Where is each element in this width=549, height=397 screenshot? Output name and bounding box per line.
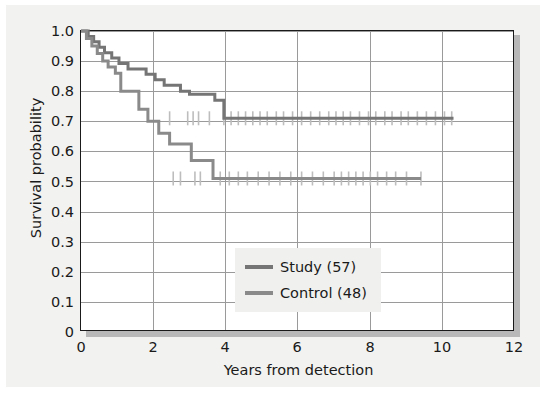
- y-tick-label: 0.5: [51, 175, 74, 190]
- y-tick-label: 0.6: [51, 144, 74, 159]
- y-tick-label: 0.8: [51, 84, 74, 99]
- legend-swatch-study: [245, 265, 273, 269]
- legend-item-control: Control (48): [245, 280, 367, 306]
- x-tick-label: 10: [433, 340, 451, 355]
- y-tick-label: 0.1: [51, 295, 74, 310]
- x-tick-label: 4: [220, 340, 229, 355]
- y-tick-label: 1.0: [51, 24, 74, 39]
- y-tick-label: 0: [65, 325, 74, 340]
- y-axis-title: Survival probability: [28, 68, 44, 268]
- x-tick-label: 2: [148, 340, 157, 355]
- x-tick-label: 0: [76, 340, 85, 355]
- survival-curve-control: [81, 31, 421, 178]
- survival-curve-study: [81, 31, 454, 118]
- x-tick-label: 12: [505, 340, 523, 355]
- legend-label-study: Study (57): [280, 259, 356, 275]
- legend-swatch-control: [245, 291, 273, 295]
- curves-layer: [81, 31, 454, 178]
- x-tick-label: 8: [365, 340, 374, 355]
- x-tick-label: 6: [292, 340, 301, 355]
- x-axis-title-text: Years from detection: [224, 362, 374, 378]
- figure-root: 1.0 0.9 0.8 0.7 0.6 0.5 0.4 0.3 0.2 0.1 …: [0, 0, 549, 397]
- legend-label-control: Control (48): [280, 285, 367, 301]
- y-tick-label: 0.9: [51, 54, 74, 69]
- y-tick-label: 0.2: [51, 265, 74, 280]
- x-axis-title: Years from detection: [0, 362, 549, 378]
- y-tick-label: 0.7: [51, 114, 74, 129]
- chart-legend: Study (57) Control (48): [235, 248, 381, 312]
- y-tick-label: 0.3: [51, 235, 74, 250]
- x-axis-ticks: 0 2 4 6 8 10 12: [0, 340, 549, 364]
- y-tick-label: 0.4: [51, 205, 74, 220]
- legend-item-study: Study (57): [245, 254, 367, 280]
